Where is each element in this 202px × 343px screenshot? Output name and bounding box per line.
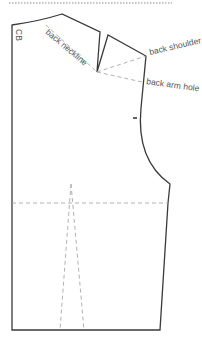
pattern-outline [12, 14, 170, 330]
waist-dart-right-leg [71, 184, 84, 330]
back-neckline-label: back neckline [44, 27, 90, 68]
shoulder-guide-line [97, 56, 146, 72]
pattern-diagram: CB back neckline back shoulder back arm … [0, 0, 202, 343]
armhole-guide-line [97, 72, 142, 82]
cb-label: CB [14, 29, 24, 41]
back-arm-hole-label: back arm hole [146, 76, 201, 93]
back-shoulder-label: back shoulder [148, 35, 202, 57]
waist-dart-left-leg [60, 184, 71, 330]
